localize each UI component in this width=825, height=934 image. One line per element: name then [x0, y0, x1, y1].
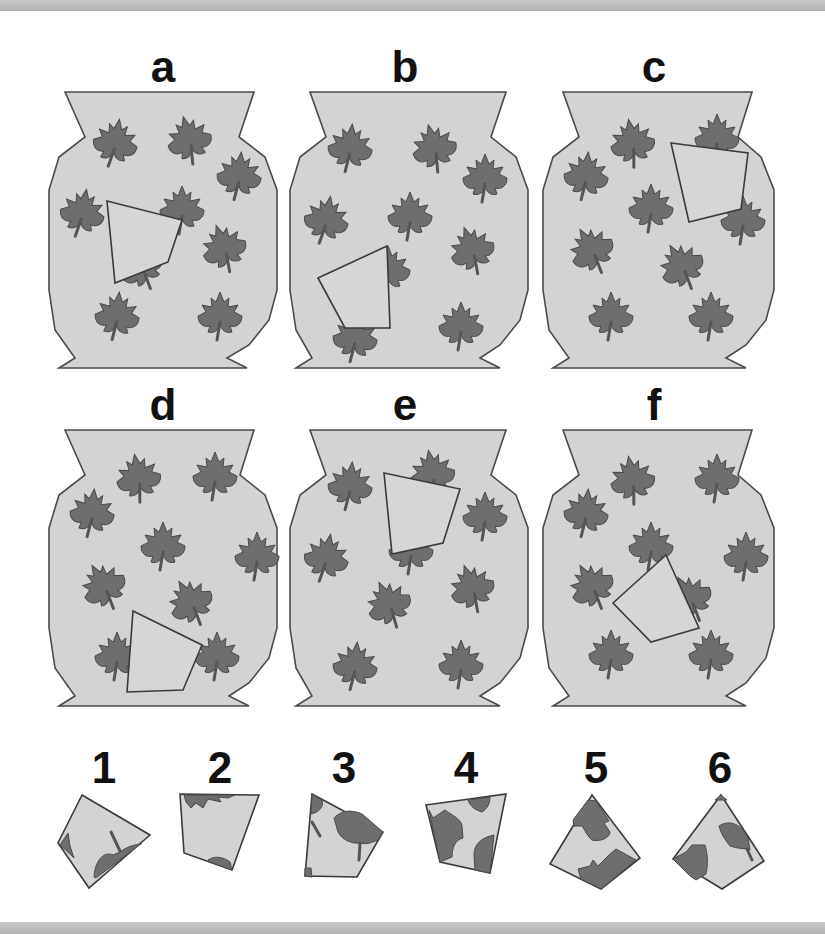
piece-label: 4	[454, 743, 479, 792]
piece-shape	[673, 795, 764, 889]
vase-c[interactable]: c	[543, 42, 774, 368]
vase-label: c	[642, 42, 666, 91]
vase-label: f	[647, 380, 662, 429]
piece-option-2[interactable]: 2	[180, 743, 259, 870]
piece-option-4[interactable]: 4	[426, 743, 506, 873]
piece-option-6[interactable]: 6	[673, 743, 764, 889]
vase-label: d	[150, 380, 177, 429]
piece-leaf-fragment	[715, 795, 727, 800]
piece-option-5[interactable]: 5	[550, 743, 640, 889]
vase-e[interactable]: e	[290, 380, 528, 706]
piece-leaf-fragment	[673, 845, 707, 880]
vase-a[interactable]: a	[49, 42, 277, 368]
piece-leaf-fragment	[305, 868, 312, 877]
vase-label: e	[393, 380, 417, 429]
piece-option-1[interactable]: 1	[58, 743, 150, 888]
piece-option-3[interactable]: 3	[305, 743, 383, 877]
piece-stem	[359, 843, 360, 860]
vase-b[interactable]: b	[290, 42, 528, 368]
vase-label: b	[392, 42, 419, 91]
piece-label: 1	[92, 743, 116, 792]
vase-label: a	[151, 42, 176, 91]
piece-label: 2	[208, 743, 232, 792]
piece-label: 3	[332, 743, 356, 792]
vase-puzzle-figure: a b c	[0, 0, 825, 934]
vase-f[interactable]: f	[543, 380, 774, 706]
piece-shape	[58, 795, 150, 888]
piece-label: 5	[584, 743, 608, 792]
vase-d[interactable]: d	[49, 380, 279, 706]
piece-label: 6	[708, 743, 732, 792]
